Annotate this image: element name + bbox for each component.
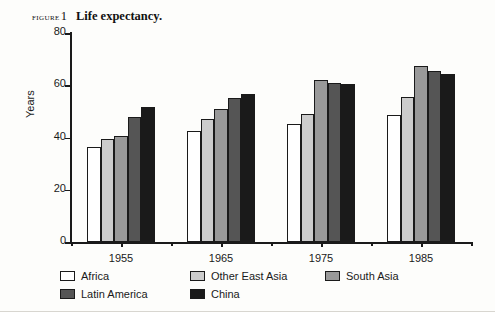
legend-item-china: China [190, 288, 240, 300]
x-axis-boundary-tick [71, 242, 73, 246]
y-axis-label: Years [24, 90, 36, 118]
bar-south-asia [414, 66, 428, 242]
legend-label: Africa [81, 270, 109, 282]
legend-swatch-icon [190, 289, 205, 299]
legend-swatch-icon [60, 289, 75, 299]
plot-area: 0204060801955196519751985 [71, 33, 471, 242]
x-axis-tick-mark [121, 242, 123, 247]
bar-group: 1965 [187, 33, 255, 242]
bar-group: 1975 [287, 33, 355, 242]
legend-swatch-icon [60, 271, 75, 281]
x-axis-tick-label: 1965 [209, 252, 233, 264]
bar-latin-america [428, 71, 442, 242]
figure-caption: FIGURE1Life expectancy. [32, 6, 162, 24]
figure-number: 1 [61, 9, 67, 23]
x-axis-tick-mark [421, 242, 423, 247]
bar-south-asia [114, 136, 128, 242]
legend-swatch-icon [325, 271, 340, 281]
legend-item-other-east-asia: Other East Asia [190, 270, 287, 282]
bar-group: 1955 [87, 33, 155, 242]
legend-item-latin-america: Latin America [60, 288, 148, 300]
legend-item-africa: Africa [60, 270, 109, 282]
bar-south-asia [214, 109, 228, 242]
bar-latin-america [328, 83, 342, 242]
bar-other-east-asia [401, 97, 415, 242]
figure-label: FIGURE [32, 11, 60, 22]
bar-africa [287, 124, 301, 242]
bar-group: 1985 [387, 33, 455, 242]
bar-china [141, 107, 155, 242]
bar-africa [187, 131, 201, 242]
bar-other-east-asia [101, 139, 115, 242]
x-axis-boundary-tick [271, 242, 273, 246]
x-axis-boundary-tick [171, 242, 173, 246]
legend-row: AfricaOther East AsiaSouth Asia [60, 268, 460, 283]
legend-swatch-icon [190, 271, 205, 281]
x-axis-tick-mark [221, 242, 223, 247]
bar-china [441, 74, 455, 243]
legend-item-south-asia: South Asia [325, 270, 399, 282]
bar-africa [87, 147, 101, 242]
figure-container: FIGURE1Life expectancy. Years 0204060801… [0, 0, 495, 312]
bar-china [241, 94, 255, 242]
x-axis-tick-label: 1975 [309, 252, 333, 264]
figure-title: Life expectancy. [76, 9, 162, 23]
y-axis-tick-label: 80 [54, 25, 66, 37]
x-axis-tick-mark [321, 242, 323, 247]
y-axis-tick-label: 60 [54, 77, 66, 89]
bar-other-east-asia [201, 119, 215, 242]
bar-south-asia [314, 80, 328, 242]
bar-latin-america [228, 98, 242, 242]
y-axis-tick-label: 0 [60, 234, 66, 246]
legend-label: Latin America [81, 288, 148, 300]
y-axis-tick-label: 40 [54, 130, 66, 142]
chart-legend: AfricaOther East AsiaSouth AsiaLatin Ame… [60, 268, 460, 304]
x-axis-tick-label: 1985 [409, 252, 433, 264]
bar-other-east-asia [301, 114, 315, 242]
x-axis-boundary-tick [471, 242, 473, 246]
bar-africa [387, 115, 401, 242]
legend-label: China [211, 288, 240, 300]
bar-china [341, 84, 355, 242]
legend-row: Latin AmericaChina [60, 286, 460, 301]
x-axis-boundary-tick [371, 242, 373, 246]
legend-label: Other East Asia [211, 270, 287, 282]
x-axis-tick-label: 1955 [109, 252, 133, 264]
legend-label: South Asia [346, 270, 399, 282]
y-axis-tick-label: 20 [54, 182, 66, 194]
bar-latin-america [128, 117, 142, 242]
